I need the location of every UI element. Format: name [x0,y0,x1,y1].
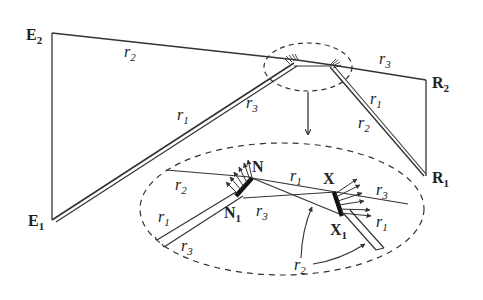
inset-label-r1-right: r1 [376,213,388,233]
link-e2-n-x-r2 [52,33,426,80]
node-label-n1: N1 [224,204,241,224]
node-label-r1: R1 [432,169,449,189]
node-label-x: X [323,170,335,187]
zoom-region-ellipse [264,43,352,91]
link-label-r2-right: r2 [358,114,370,134]
link-e1-n-a [52,63,294,220]
link-x-r1-a [330,67,424,176]
link-x-r1-b [334,66,426,174]
network-diagram: E2 E1 R2 R1 r2 r1 r3 r3 r1 r2 N N1 X X1 … [0,0,483,300]
node-label-n: N [252,158,264,175]
node-label-r2: R2 [432,74,450,94]
inset-label-r1-left: r1 [158,208,170,228]
node-label-x1: X1 [330,221,347,241]
link-label-r1-left: r1 [177,106,189,126]
inset-label-r1-mid: r1 [290,167,302,187]
inset-network [155,170,408,250]
link-label-r2-top: r2 [124,43,136,63]
diagram-svg: E2 E1 R2 R1 r2 r1 r3 r3 r1 r2 N N1 X X1 … [0,0,483,300]
inset-label-r3-mid: r3 [256,202,268,222]
inset-tick [162,244,164,247]
inset-ellipse [140,143,424,275]
inset-label-r2-top-left: r2 [175,176,187,196]
link-label-r1-right: r1 [370,90,382,110]
inset-label-r3-right: r3 [376,181,388,201]
node-label-e1: E1 [28,212,44,232]
link-label-r3-right: r3 [379,50,391,70]
inset-link-x1-cap [376,248,384,250]
node-label-e2: E2 [26,26,43,46]
inset-label-r3-bottom-left: r3 [181,237,193,257]
link-label-r3-left: r3 [246,94,258,114]
inset-label-r2-bottom: r2 [294,256,306,276]
inset-link-x1-a [344,214,376,250]
